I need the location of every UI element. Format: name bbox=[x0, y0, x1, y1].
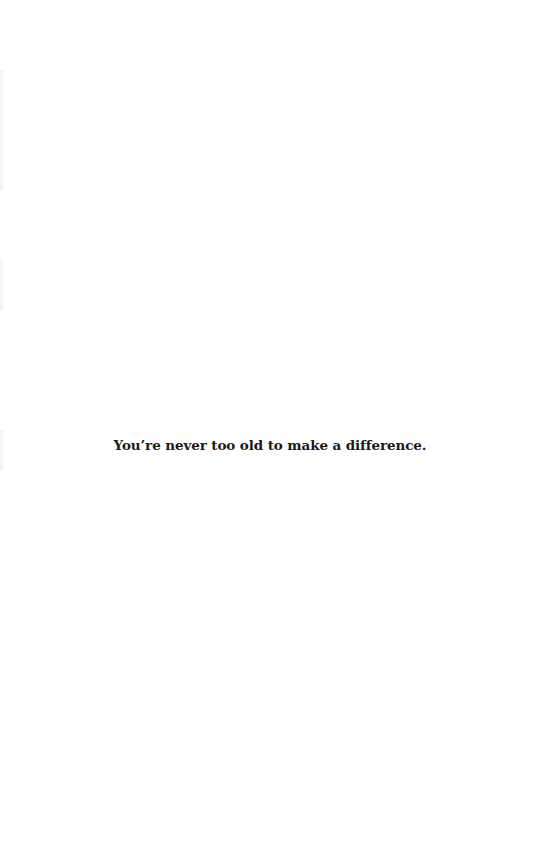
tagline-text: You’re never too old to make a differenc… bbox=[0, 435, 537, 455]
document-page: You’re never too old to make a differenc… bbox=[0, 0, 537, 867]
scan-artifact bbox=[0, 70, 3, 190]
scan-artifact bbox=[0, 260, 3, 310]
